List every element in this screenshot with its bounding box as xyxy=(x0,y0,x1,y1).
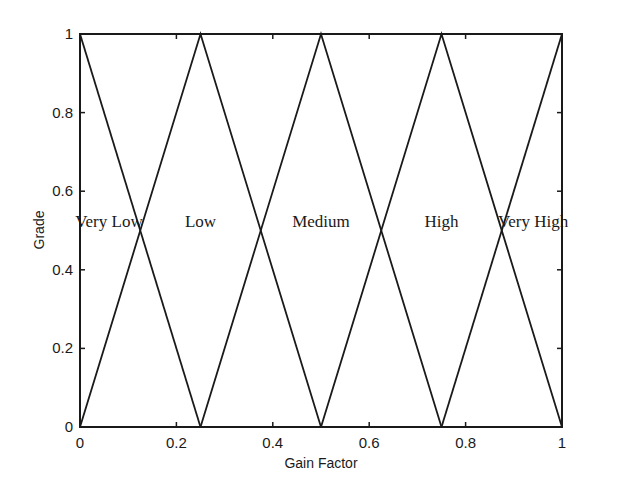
y-tick-label: 0.4 xyxy=(52,261,73,278)
mf-line-medium xyxy=(201,34,442,427)
y-tick-label: 0.8 xyxy=(52,104,73,121)
x-tick-label: 1 xyxy=(558,434,566,451)
axis-ticks xyxy=(80,34,562,427)
mf-label-very-low: Very Low xyxy=(75,212,143,231)
y-axis-title: Grade xyxy=(31,210,47,249)
mf-label-high: High xyxy=(425,212,460,231)
x-tick-label: 0.4 xyxy=(262,434,283,451)
membership-labels: Very LowLowMediumHighVery High xyxy=(75,212,569,231)
mf-label-very-high: Very High xyxy=(498,212,569,231)
mf-line-low xyxy=(80,34,321,427)
x-axis-title: Gain Factor xyxy=(284,455,357,471)
membership-function-chart: 00.20.40.60.81 00.20.40.60.81 Very LowLo… xyxy=(0,0,630,502)
mf-line-high xyxy=(321,34,562,427)
y-tick-labels: 00.20.40.60.81 xyxy=(52,25,73,435)
x-tick-label: 0.2 xyxy=(166,434,187,451)
x-tick-label: 0 xyxy=(76,434,84,451)
x-tick-labels: 00.20.40.60.81 xyxy=(76,434,566,451)
mf-label-medium: Medium xyxy=(292,212,350,231)
x-tick-label: 0.6 xyxy=(359,434,380,451)
x-tick-label: 0.8 xyxy=(455,434,476,451)
y-tick-label: 0.6 xyxy=(52,182,73,199)
y-tick-label: 1 xyxy=(65,25,73,42)
y-tick-label: 0 xyxy=(65,418,73,435)
membership-function-lines xyxy=(80,34,562,427)
plot-frame xyxy=(80,34,562,427)
y-tick-label: 0.2 xyxy=(52,339,73,356)
mf-label-low: Low xyxy=(185,212,217,231)
